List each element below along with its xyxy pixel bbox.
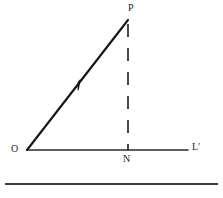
vertex-label-n: N xyxy=(123,154,130,164)
vertex-label-p: P xyxy=(128,3,134,13)
geometry-figure: P O N L′ xyxy=(0,0,223,198)
vertex-label-o: O xyxy=(11,144,18,154)
diagram-canvas xyxy=(0,0,223,198)
figure-background xyxy=(0,0,223,198)
line-end-label-lprime: L′ xyxy=(192,142,200,152)
